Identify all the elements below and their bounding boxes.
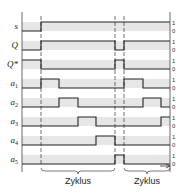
signal-label-a2: a2: [11, 97, 19, 108]
cycle-brace: [41, 168, 115, 174]
level-low-s: 0: [172, 28, 176, 34]
level-low-Q: 0: [172, 47, 176, 53]
level-high-s: 1: [172, 20, 176, 26]
band-a1: [22, 79, 170, 88]
level-high-a4: 1: [172, 134, 176, 140]
signal-label-s: s: [14, 21, 18, 31]
level-high-a1: 1: [172, 77, 176, 83]
level-low-a3: 0: [172, 123, 176, 129]
level-low-a2: 0: [172, 104, 176, 110]
signal-labels: sQQ*a1a2a3a4a5: [7, 21, 19, 165]
timing-diagram: sQQ*a1a2a3a4a5 1010101010101010 ZyklusZy…: [0, 0, 183, 193]
band-a5: [22, 155, 170, 164]
signal-label-a5: a5: [11, 154, 19, 165]
level-low-a5: 0: [172, 161, 176, 167]
level-low-a4: 0: [172, 142, 176, 148]
band-s: [22, 22, 170, 31]
level-high-a3: 1: [172, 115, 176, 121]
cycle-label: Zyklus: [134, 176, 161, 186]
signal-label-a3: a3: [11, 116, 19, 127]
level-low-a1: 0: [172, 85, 176, 91]
cycle-brace: [124, 168, 170, 174]
level-high-Q*: 1: [172, 58, 176, 64]
cycle-label: Zyklus: [65, 176, 92, 186]
cycle-braces: ZyklusZyklus: [41, 164, 170, 186]
band-Q*: [22, 60, 170, 69]
level-low-Q*: 0: [172, 66, 176, 72]
level-high-a5: 1: [172, 153, 176, 159]
signal-label-a1: a1: [11, 78, 19, 89]
band-Q: [22, 41, 170, 50]
signal-label-Q: Q: [12, 40, 19, 50]
time-arrow-icon: [160, 164, 170, 168]
level-high-a2: 1: [172, 96, 176, 102]
band-a2: [22, 98, 170, 107]
signal-label-a4: a4: [11, 135, 19, 146]
signal-label-Q*: Q*: [7, 59, 18, 69]
level-labels: 1010101010101010: [172, 20, 176, 167]
level-high-Q: 1: [172, 39, 176, 45]
